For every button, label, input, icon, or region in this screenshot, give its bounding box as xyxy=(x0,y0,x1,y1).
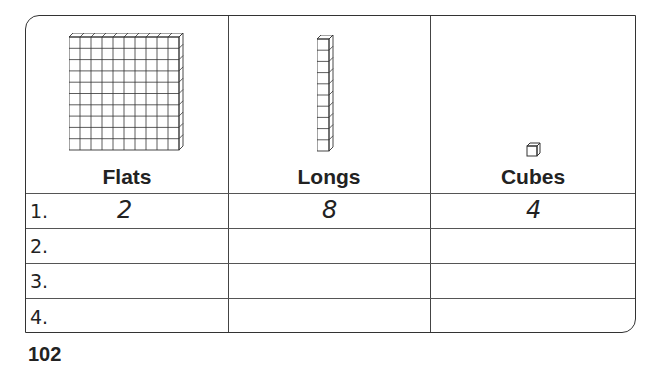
row-divider xyxy=(26,263,635,264)
unit-cube-icon xyxy=(526,142,542,161)
column-header-cubes: Cubes xyxy=(430,165,636,189)
flat-block-icon xyxy=(69,33,184,155)
column-header-flats: Flats xyxy=(26,165,228,189)
row-number: 2. xyxy=(30,235,48,257)
header-cell-flats: Flats xyxy=(26,16,228,193)
row-number: 1. xyxy=(30,200,48,222)
long-rod-icon xyxy=(317,35,334,156)
column-header-longs: Longs xyxy=(228,165,430,189)
row-divider xyxy=(26,193,635,194)
row-divider xyxy=(26,228,635,229)
row-number: 4. xyxy=(30,306,48,328)
page-number: 102 xyxy=(28,343,61,366)
flats-answer[interactable]: 2 xyxy=(117,196,132,224)
cubes-answer[interactable]: 4 xyxy=(526,196,541,224)
longs-answer[interactable]: 8 xyxy=(322,196,337,224)
row-number: 3. xyxy=(30,270,48,292)
header-cell-cubes: Cubes xyxy=(430,16,636,193)
place-value-table: Flats xyxy=(25,15,636,333)
header-cell-longs: Longs xyxy=(228,16,430,193)
row-divider xyxy=(26,298,635,299)
